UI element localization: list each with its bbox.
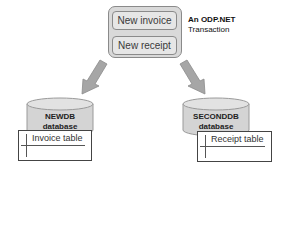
invoice-table-title: Invoice table <box>32 133 83 143</box>
receipt-table-title: Receipt table <box>211 134 264 144</box>
seconddb-label: SECONDDB database <box>183 112 249 132</box>
table-header-line <box>200 146 265 147</box>
table-header-line <box>21 145 85 146</box>
arrow-right-icon <box>180 60 205 94</box>
newdb-label: NEWDB database <box>27 112 93 132</box>
seconddb-name: SECONDDB <box>183 112 249 122</box>
arrow-left-icon <box>82 60 107 94</box>
invoice-table-box: Invoice table <box>18 130 92 161</box>
newdb-name: NEWDB <box>27 112 93 122</box>
receipt-table-box: Receipt table <box>197 131 272 162</box>
